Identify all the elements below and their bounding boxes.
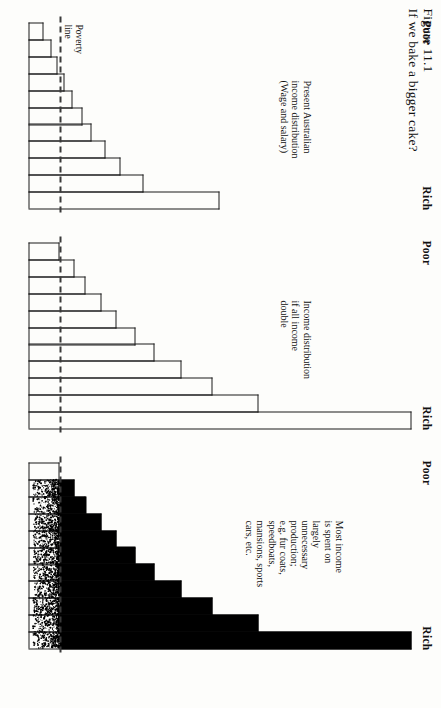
bar-series-1 bbox=[28, 22, 411, 208]
poverty-line-1 bbox=[59, 16, 61, 212]
bar-series-3 bbox=[28, 462, 411, 648]
panel-note-line: production; bbox=[288, 520, 299, 587]
axis-end-label-poor-1: Poor bbox=[420, 20, 432, 45]
bar bbox=[28, 597, 212, 615]
bar bbox=[28, 563, 154, 581]
panel-note-line: speedboats, bbox=[265, 520, 276, 587]
bar bbox=[28, 90, 72, 108]
bar bbox=[28, 614, 258, 632]
bar bbox=[28, 530, 116, 548]
bar bbox=[28, 580, 181, 598]
bar-series-2 bbox=[28, 242, 411, 428]
panel-note-line: e.g. fur coats, bbox=[277, 520, 288, 587]
bar bbox=[28, 394, 258, 412]
poverty-line-3 bbox=[59, 456, 61, 652]
bar-shaded-portion bbox=[59, 631, 411, 649]
chart-panel-unnecessary-production: Poor Rich Most incomeis spent onlargelyu… bbox=[28, 462, 411, 648]
bar-shaded-portion bbox=[59, 496, 86, 514]
bar-shaded-portion bbox=[59, 580, 182, 598]
plot-area-3 bbox=[28, 462, 411, 648]
bar bbox=[28, 327, 135, 345]
chart-panel-present-distribution: Poverty line Poor Rich Present Australia… bbox=[28, 22, 411, 208]
bar bbox=[28, 293, 101, 311]
bar bbox=[28, 259, 74, 277]
bar bbox=[28, 276, 85, 294]
bar bbox=[28, 140, 105, 158]
bar bbox=[28, 496, 85, 514]
poverty-line-2 bbox=[59, 236, 61, 432]
axis-end-label-rich-1: Rich bbox=[420, 186, 432, 210]
plot-area-1: Poverty line bbox=[28, 22, 411, 208]
panel-note-line: is spent on bbox=[321, 520, 332, 587]
bar bbox=[28, 513, 101, 531]
axis-end-label-poor-2: Poor bbox=[420, 240, 432, 265]
bar bbox=[28, 174, 143, 192]
panel-note-line: double bbox=[278, 300, 289, 379]
bar bbox=[28, 631, 411, 649]
bar-shaded-portion bbox=[59, 614, 258, 632]
plot-area-2 bbox=[28, 242, 411, 428]
axis-end-label-rich-2: Rich bbox=[420, 406, 432, 430]
baseline-axis-3 bbox=[28, 462, 29, 648]
bar-shaded-portion bbox=[59, 546, 136, 564]
bar bbox=[28, 157, 120, 175]
bar bbox=[28, 22, 43, 40]
bar-shaded-portion bbox=[59, 563, 155, 581]
panel-note-line: largely bbox=[310, 520, 321, 587]
baseline-axis-2 bbox=[28, 242, 29, 428]
rotated-figure-canvas: Figure 11.1 If we bake a bigger cake? Po… bbox=[0, 0, 441, 708]
bar bbox=[28, 242, 59, 260]
panel-note-line: income distribution bbox=[289, 80, 300, 158]
panel-note-line: if all income bbox=[289, 300, 300, 379]
poverty-line-label-1: Poverty line bbox=[62, 24, 83, 54]
bar bbox=[28, 360, 181, 378]
bar bbox=[28, 107, 82, 125]
bar bbox=[28, 310, 116, 328]
bar bbox=[28, 343, 154, 361]
panel-note-line: Income distribution bbox=[300, 300, 311, 379]
panel-note-line: unnecessary bbox=[299, 520, 310, 587]
panel-note-line: Most income bbox=[333, 520, 344, 587]
bar bbox=[28, 377, 212, 395]
panel-note-1: Present Australianincome distribution(Wa… bbox=[278, 80, 312, 158]
bar bbox=[28, 411, 411, 429]
bar-shaded-portion bbox=[59, 513, 101, 531]
panel-note-line: mansions, sports bbox=[254, 520, 265, 587]
bar-shaded-portion bbox=[59, 530, 116, 548]
panel-note-line: (Wage and salary) bbox=[278, 80, 289, 158]
bar bbox=[28, 56, 57, 74]
bar bbox=[28, 39, 51, 57]
bar bbox=[28, 462, 59, 480]
bar-shaded-portion bbox=[59, 597, 212, 615]
panel-note-3: Most incomeis spent onlargelyunnecessary… bbox=[243, 520, 344, 587]
chart-panel-doubled-distribution: Poor Rich Income distributionif all inco… bbox=[28, 242, 411, 428]
axis-end-label-poor-3: Poor bbox=[420, 460, 432, 485]
panel-note-2: Income distributionif all incomedouble bbox=[278, 300, 312, 379]
baseline-axis-1 bbox=[28, 22, 29, 208]
figure-page: Figure 11.1 If we bake a bigger cake? Po… bbox=[0, 0, 441, 708]
bar bbox=[28, 547, 135, 565]
bar bbox=[28, 479, 74, 497]
panel-note-line: Present Australian bbox=[300, 80, 311, 158]
axis-end-label-rich-3: Rich bbox=[420, 626, 432, 650]
bar bbox=[28, 191, 220, 209]
panel-note-line: cars, etc. bbox=[243, 520, 254, 587]
